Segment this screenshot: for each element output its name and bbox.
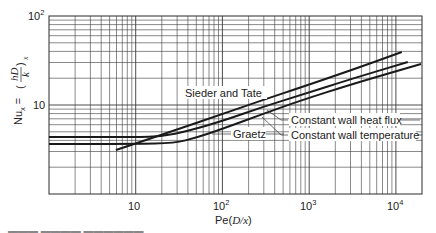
y-tick-10: 10 (33, 99, 45, 111)
y-axis-label: Nux = ( hD k ) x (8, 56, 31, 125)
svg-text:(: ( (14, 85, 26, 89)
label-sieder-and-tate: Sieder and Tate (185, 87, 262, 99)
x-tick-10: 10 (128, 200, 140, 212)
svg-text:Nux =: Nux = (12, 98, 27, 125)
x-tick-100: 102 (213, 198, 229, 212)
x-tick-1000: 103 (300, 198, 316, 212)
svg-text:): ) (14, 62, 26, 66)
nusselt-chart: Sieder and Tate Graetz Constant wall hea… (0, 0, 436, 233)
y-tick-100: 102 (28, 8, 44, 22)
x-axis-label: Pe(D/x) (215, 214, 252, 226)
figure-caption-cropped: ▬▬▬ ▬▬▬▬ ▬▬▬▬▬▬ (0, 226, 436, 233)
svg-text:x: x (21, 56, 30, 61)
x-tick-10000: 104 (387, 198, 403, 212)
label-constant-wall-temperature: Constant wall temperature (291, 129, 419, 141)
label-constant-wall-heat-flux: Constant wall heat flux (291, 114, 402, 126)
label-graetz: Graetz (233, 128, 266, 140)
